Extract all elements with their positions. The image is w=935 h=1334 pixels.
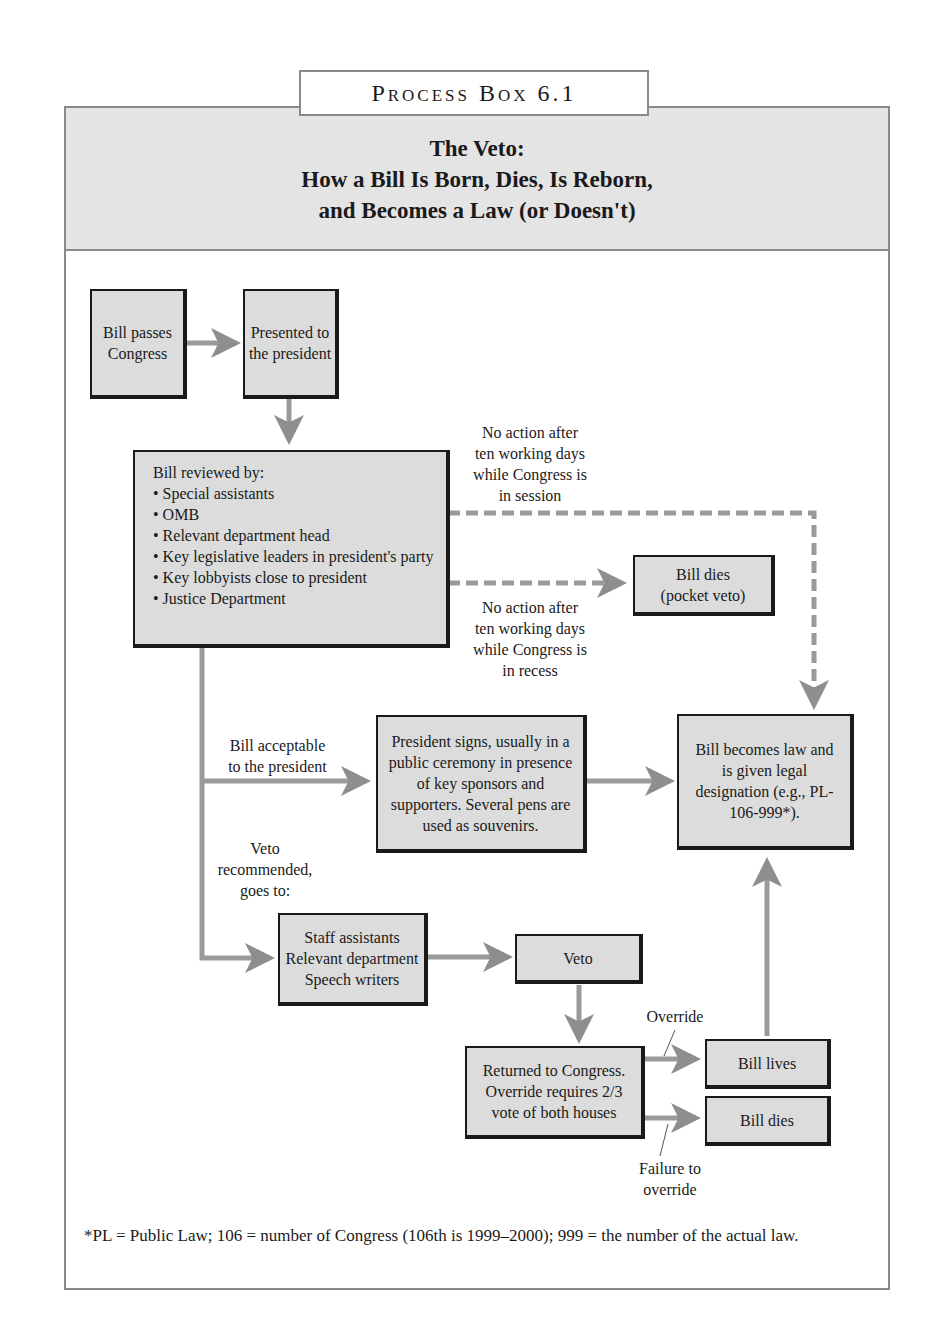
reviewed-heading: Bill reviewed by: xyxy=(153,462,264,483)
node-label: Returned to Congress. Override requires … xyxy=(473,1060,635,1123)
reviewer-item: • OMB xyxy=(153,504,433,525)
node-veto: Veto xyxy=(515,934,643,984)
title-line: How a Bill Is Born, Dies, Is Reborn, xyxy=(66,164,888,195)
reviewer-item: • Key legislative leaders in president's… xyxy=(153,546,433,567)
node-label: Speech writers xyxy=(305,969,400,990)
footnote: *PL = Public Law; 106 = number of Congre… xyxy=(84,1222,884,1249)
node-label: Bill passes Congress xyxy=(92,322,183,364)
node-reviewed: Bill reviewed by: • Special assistants •… xyxy=(133,450,450,648)
title-line: The Veto: xyxy=(66,133,888,164)
node-label: Bill dies xyxy=(676,564,730,585)
label-in-recess: No action afterten working days while Co… xyxy=(455,597,605,681)
node-bill-passes: Bill passes Congress xyxy=(90,289,187,399)
label-in-session: No action afterten working days while Co… xyxy=(455,422,605,506)
label-veto-recommended: Vetorecommended, goes to: xyxy=(200,838,330,901)
node-label: Veto xyxy=(563,948,592,969)
node-label: Bill dies xyxy=(740,1110,794,1131)
reviewer-item: • Justice Department xyxy=(153,588,433,609)
label-acceptable: Bill acceptableto the president xyxy=(210,735,345,777)
reviewer-item: • Key lobbyists close to president xyxy=(153,567,433,588)
node-president-signs: President signs, usually in a public cer… xyxy=(376,715,587,853)
node-returned: Returned to Congress. Override requires … xyxy=(465,1046,645,1139)
node-label: Presented to the president xyxy=(245,322,335,364)
label-failure: Failure tooverride xyxy=(625,1158,715,1200)
diagram-title: The Veto: How a Bill Is Born, Dies, Is R… xyxy=(66,133,888,226)
node-staff: Staff assistants Relevant department Spe… xyxy=(278,913,428,1006)
node-label: President signs, usually in a public cer… xyxy=(382,731,579,836)
node-presented: Presented to the president xyxy=(243,289,339,399)
node-label: Bill lives xyxy=(738,1053,796,1074)
node-label: (pocket veto) xyxy=(661,585,746,606)
node-label: Staff assistants xyxy=(304,927,399,948)
node-bill-dies: Bill dies xyxy=(705,1096,831,1146)
process-box-tag: Process Box 6.1 xyxy=(299,70,649,116)
reviewer-item: • Relevant department head xyxy=(153,525,433,546)
reviewer-list: • Special assistants • OMB • Relevant de… xyxy=(153,483,433,609)
node-pocket-veto: Bill dies (pocket veto) xyxy=(633,555,775,616)
reviewer-item: • Special assistants xyxy=(153,483,433,504)
node-bill-lives: Bill lives xyxy=(705,1039,831,1089)
node-label: Bill becomes law and is given legal desi… xyxy=(691,739,838,823)
title-line: and Becomes a Law (or Doesn't) xyxy=(66,195,888,226)
node-becomes-law: Bill becomes law and is given legal desi… xyxy=(677,714,854,850)
label-override: Override xyxy=(635,1006,715,1027)
node-label: Relevant department xyxy=(286,948,419,969)
